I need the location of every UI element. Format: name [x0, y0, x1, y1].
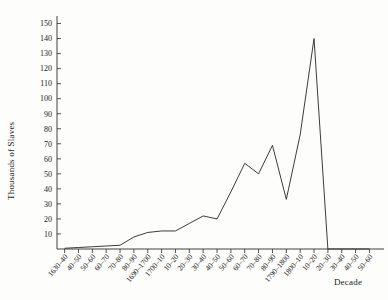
y-axis-title: Thousands of Slaves [6, 121, 16, 200]
x-axis-title: Decade [334, 277, 362, 287]
y-tick-label: 20 [44, 215, 52, 224]
y-axis-tick-labels: 102030405060708090100110120130140150 [40, 19, 52, 238]
y-axis-tick-marks [57, 24, 61, 234]
y-tick-label: 130 [40, 49, 52, 58]
y-tick-label: 80 [44, 125, 52, 134]
y-tick-label: 50 [44, 170, 52, 179]
y-tick-label: 70 [44, 140, 52, 149]
x-tick-label: 50–60 [356, 252, 375, 272]
y-tick-label: 10 [44, 230, 52, 239]
y-tick-label: 60 [44, 155, 52, 164]
y-tick-label: 140 [40, 34, 52, 43]
data-series-line [65, 39, 370, 249]
line-chart: 102030405060708090100110120130140150 163… [0, 0, 388, 300]
y-tick-label: 110 [40, 79, 52, 88]
x-axis-tick-marks [65, 249, 370, 253]
y-tick-label: 150 [40, 19, 52, 28]
y-tick-label: 100 [40, 94, 52, 103]
y-tick-label: 40 [44, 185, 52, 194]
y-tick-label: 90 [44, 110, 52, 119]
x-axis-tick-labels: 1630–4040–5050–6060–7070–8080–901690–170… [46, 252, 375, 284]
y-tick-label: 30 [44, 200, 52, 209]
chart-figure: 102030405060708090100110120130140150 163… [0, 0, 388, 300]
y-tick-label: 120 [40, 64, 52, 73]
